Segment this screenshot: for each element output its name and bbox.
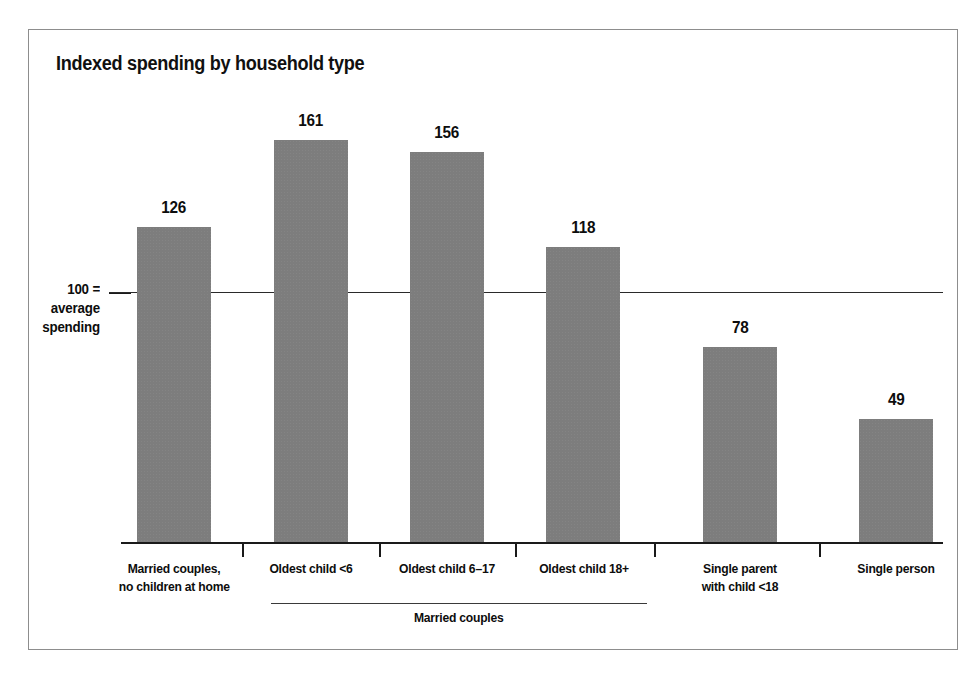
- x-axis-tick-1: [379, 544, 381, 557]
- category-label-2-line-1: Oldest child 6–17: [392, 560, 502, 578]
- figure-frame: Indexed spending by household type 100 =…: [28, 29, 958, 650]
- category-label-2: Oldest child 6–17: [387, 560, 507, 578]
- bar-3: [546, 247, 620, 542]
- bar-value-1: 161: [274, 111, 348, 131]
- category-label-0: Married couples, no children at home: [114, 560, 234, 595]
- bar-1: [274, 140, 348, 542]
- bar-value-5: 49: [859, 390, 933, 410]
- y-axis-label-line-3: spending: [0, 318, 100, 337]
- category-label-4-line-1: Single parent: [685, 560, 795, 578]
- bar-value-label-2: 156: [435, 123, 460, 143]
- category-label-5-line-1: Single person: [841, 560, 951, 578]
- x-axis-tick-3: [654, 544, 656, 557]
- category-label-0-line-1: Married couples,: [119, 560, 229, 578]
- x-axis-tick-0: [242, 544, 244, 557]
- plot-area: 100 = average spending 126 161 156: [29, 30, 959, 651]
- x-axis-tick-4: [819, 544, 821, 557]
- category-label-4-line-2: with child <18: [685, 578, 795, 596]
- category-label-1: Oldest child <6: [251, 560, 371, 578]
- bar-value-label-4: 78: [732, 318, 748, 338]
- bar-value-label-3: 118: [571, 218, 595, 238]
- chart-page: Indexed spending by household type 100 =…: [0, 0, 976, 679]
- group-bracket-line: [271, 603, 647, 604]
- bar-value-3: 118: [546, 218, 620, 238]
- bar-4: [703, 347, 777, 542]
- category-label-4: Single parent with child <18: [680, 560, 800, 595]
- category-label-3-line-1: Oldest child 18+: [529, 560, 639, 578]
- reference-line-100: [109, 292, 943, 293]
- bar-value-2: 156: [410, 123, 484, 143]
- bar-value-4: 78: [703, 318, 777, 338]
- group-bracket-label-text: Married couples: [414, 610, 504, 625]
- bar-2: [410, 152, 484, 542]
- category-label-0-line-2: no children at home: [119, 578, 229, 596]
- category-label-1-line-1: Oldest child <6: [256, 560, 366, 578]
- bar-0: [137, 227, 211, 542]
- x-axis-tick-2: [515, 544, 517, 557]
- category-label-3: Oldest child 18+: [524, 560, 644, 578]
- y-axis-label-line-2: average: [0, 299, 100, 318]
- y-axis-reference-label: 100 = average spending: [0, 280, 100, 337]
- bar-value-0: 126: [137, 198, 211, 218]
- y-axis-label-line-1: 100 =: [0, 280, 100, 299]
- bar-value-label-0: 126: [162, 198, 187, 218]
- bar-5: [859, 419, 933, 542]
- group-bracket-label: Married couples: [271, 610, 647, 625]
- bar-value-label-1: 161: [299, 111, 324, 131]
- category-label-5: Single person: [836, 560, 956, 578]
- bar-value-label-5: 49: [888, 390, 904, 410]
